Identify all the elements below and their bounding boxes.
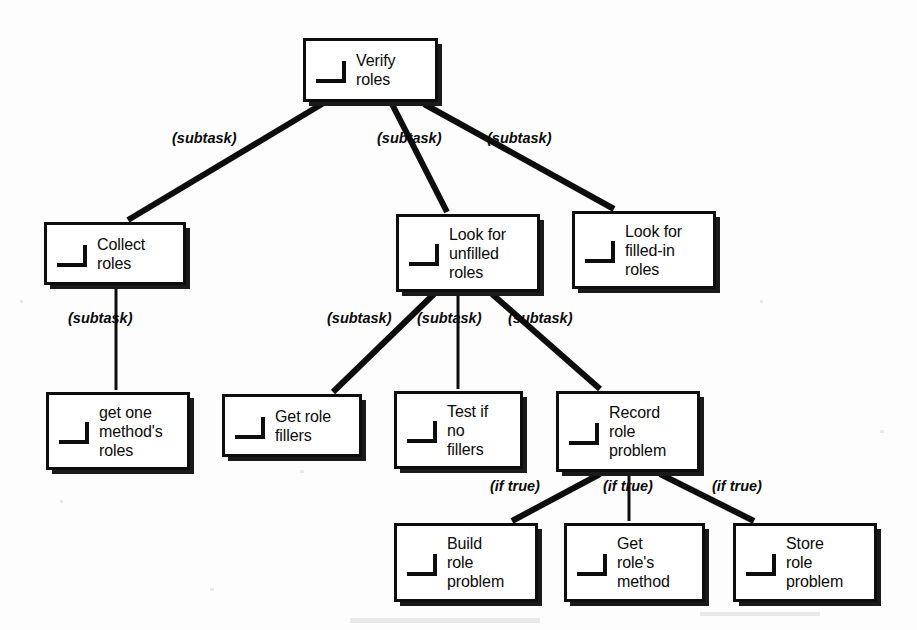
scan-artifact bbox=[20, 300, 23, 303]
edge-label-look-unfilled-to-record-role-problem: (subtask) bbox=[508, 310, 572, 326]
scan-artifact bbox=[210, 588, 214, 591]
edge-label-record-role-problem-to-get-roles-method: (if true) bbox=[603, 478, 653, 494]
scan-artifact bbox=[760, 300, 763, 303]
edge-label-record-role-problem-to-build-role-problem: (if true) bbox=[490, 478, 540, 494]
edge-label-verify-roles-to-look-unfilled: (subtask) bbox=[377, 130, 441, 146]
scan-artifact bbox=[880, 430, 884, 433]
scan-artifact bbox=[60, 500, 63, 503]
scan-artifact bbox=[700, 612, 820, 616]
scan-artifact bbox=[300, 470, 304, 473]
edge-label-look-unfilled-to-get-role-fillers: (subtask) bbox=[327, 310, 391, 326]
edge-label-verify-roles-to-look-filled-in: (subtask) bbox=[487, 130, 551, 146]
edge-label-record-role-problem-to-store-role-problem: (if true) bbox=[712, 478, 762, 494]
edge-label-verify-roles-to-collect-roles: (subtask) bbox=[172, 130, 236, 146]
scan-artifact bbox=[350, 618, 540, 623]
diagram-canvas: Verify rolesCollect rolesLook for unfill… bbox=[0, 0, 917, 630]
edge-label-collect-roles-to-get-one-methods: (subtask) bbox=[68, 310, 132, 326]
edge-label-look-unfilled-to-test-if-no-fillers: (subtask) bbox=[417, 310, 481, 326]
edge-label-layer: (subtask)(subtask)(subtask)(subtask)(sub… bbox=[0, 0, 917, 630]
